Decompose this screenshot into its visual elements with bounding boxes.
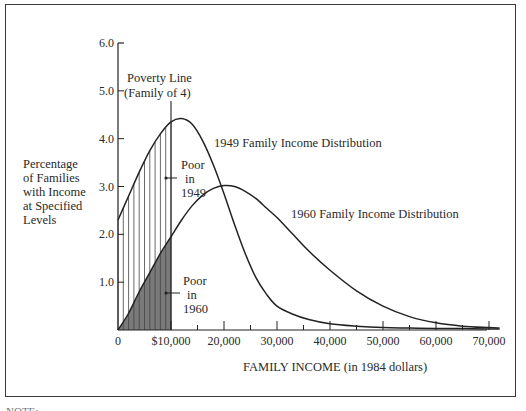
y-tick-label: 1.0 [99, 275, 114, 289]
poverty-line-label: Poverty Line [127, 71, 192, 85]
poor-1949-label-1: Poor [181, 158, 205, 172]
x-tick-label: 50,000 [367, 334, 400, 348]
x-tick-label: 40,000 [314, 334, 347, 348]
x-tick-label: 30,000 [261, 334, 294, 348]
curves [118, 119, 500, 330]
y-tick-label: 5.0 [99, 84, 114, 98]
footnote-text-cropped: NOTE: ... [6, 404, 49, 411]
poor-1949-label-3: 1949 [181, 186, 206, 200]
curve-1960-label: 1960 Family Income Distribution [291, 207, 459, 221]
curve-1949 [118, 119, 500, 330]
x-tick-label: 20,000 [208, 334, 241, 348]
poverty-line-sublabel: (Family of 4) [124, 86, 191, 100]
poor-1960-label-1: Poor [183, 274, 207, 288]
y-tick-label: 3.0 [99, 180, 114, 194]
y-tick-label: 2.0 [99, 227, 114, 241]
poor-1949-label-2: in [185, 172, 195, 186]
income-distribution-chart: 1.02.03.04.05.06.00$10,00020,00030,00040… [0, 0, 526, 411]
poor-1960-arrow-icon [164, 291, 180, 294]
x-tick-label: 70,000 [473, 334, 506, 348]
poor-1960-label-3: 1960 [183, 302, 208, 316]
y-tick-label: 6.0 [99, 36, 114, 50]
curve-1949-label: 1949 Family Income Distribution [214, 136, 382, 150]
poor-1960-label-2: in [187, 288, 197, 302]
y-axis-label: Percentageof Familieswith Incomeat Speci… [23, 157, 86, 227]
x-axis-label: FAMILY INCOME (in 1984 dollars) [243, 360, 427, 374]
x-tick-label: $10,000 [152, 334, 191, 348]
x-tick-label: 0 [115, 334, 121, 348]
y-tick-label: 4.0 [99, 132, 114, 146]
x-tick-label: 60,000 [420, 334, 453, 348]
